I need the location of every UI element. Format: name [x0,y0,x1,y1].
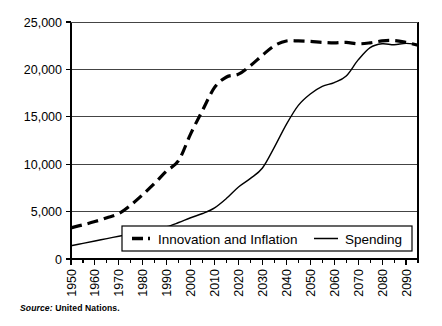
y-axis-tick-label: 15,000 [24,110,62,124]
x-axis-tick-label: 1990 [160,269,174,297]
source-value: United Nations. [55,303,120,313]
x-axis-tick-label: 2040 [280,269,294,297]
source-label: Source: [20,303,53,313]
x-axis-tick-label: 2090 [400,269,414,297]
y-axis-tick-label: 20,000 [24,63,62,77]
y-axis-tick-label: 5,000 [31,205,62,219]
line-chart: 05,00010,00015,00020,00025,000 195019601… [0,0,442,326]
x-axis-tick-label: 2060 [328,269,342,297]
x-axis-tick-label: 2030 [256,269,270,297]
x-axis-tick-label: 2080 [376,269,390,297]
chart-legend[interactable]: Innovation and InflationSpending [122,226,412,251]
source-note: Source: United Nations. [20,303,120,313]
legend-label-innovation-and-inflation: Innovation and Inflation [158,232,298,247]
x-axis-tick-label: 1970 [112,269,126,297]
y-axis-tick-label: 25,000 [24,16,62,30]
y-axis-tick-label: 10,000 [24,158,62,172]
x-axis-tick-label: 2000 [184,269,198,297]
x-axis-tick-label: 1950 [65,269,79,297]
y-axis-tick-label: 0 [55,253,62,267]
x-axis-tick-label: 2010 [208,269,222,297]
x-axis-tick-label: 1980 [136,269,150,297]
x-axis-tick-label: 2050 [304,269,318,297]
x-axis-tick-label: 2070 [352,269,366,297]
chart-figure: 05,00010,00015,00020,00025,000 195019601… [0,0,442,326]
x-axis-tick-labels: 1950196019701980199020002010202020302040… [65,269,414,297]
legend-label-spending: Spending [345,232,402,247]
x-axis-tick-label: 1960 [88,269,102,297]
x-axis-tick-label: 2020 [232,269,246,297]
